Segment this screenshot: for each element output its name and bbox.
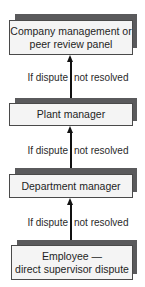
employee-node-line2: direct supervisor dispute	[15, 263, 129, 276]
plant-node-label: Plant manager	[37, 108, 105, 121]
employee-node-line1: Employee —	[15, 250, 129, 263]
edge-label-left: If dispute	[27, 145, 68, 157]
edge-label-right: not resolved	[74, 145, 128, 157]
company-node-line1: Company management or	[10, 25, 131, 38]
plant-manager-node: Plant manager	[9, 103, 133, 126]
employee-dispute-node: Employee — direct supervisor dispute	[11, 245, 133, 280]
company-management-node: Company management or peer review panel	[9, 20, 133, 55]
edge-label-left: If dispute	[27, 217, 68, 229]
company-node-line2: peer review panel	[10, 38, 131, 51]
edge-label-right: not resolved	[74, 72, 128, 84]
department-node-label: Department manager	[21, 180, 120, 193]
arrowhead-up-icon	[67, 126, 73, 133]
edge-label-left: If dispute	[27, 72, 68, 84]
edge-label-right: not resolved	[74, 217, 128, 229]
edge-line-employee-to-department	[70, 204, 72, 240]
department-manager-node: Department manager	[9, 174, 133, 198]
edge-line-plant-to-company	[70, 61, 72, 98]
arrowhead-up-icon	[67, 198, 73, 205]
arrowhead-up-icon	[67, 55, 73, 62]
edge-line-department-to-plant	[70, 132, 72, 168]
